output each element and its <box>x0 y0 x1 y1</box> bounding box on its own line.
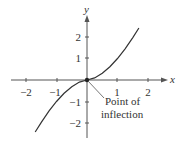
y-tick-label: 2 <box>76 31 82 43</box>
plot-area: −2 −1 1 2 2 1 −1 −2 x y Point of inflect… <box>0 0 183 143</box>
x-tick-label: −1 <box>49 86 61 98</box>
y-tick-label: 1 <box>76 52 82 64</box>
annotation-leader <box>88 81 104 98</box>
annotation-line2: inflection <box>101 108 144 120</box>
x-axis-label: x <box>169 73 175 85</box>
x-tick-label: 2 <box>145 86 151 98</box>
y-tick-label: −1 <box>69 96 81 108</box>
y-tick-label: −2 <box>69 117 81 129</box>
annotation-line1: Point of <box>105 95 140 107</box>
x-tick-label: −2 <box>20 86 32 98</box>
y-axis-arrow-icon <box>85 15 90 22</box>
x-axis-arrow-icon <box>161 78 168 83</box>
y-axis-label: y <box>83 3 89 15</box>
chart: −2 −1 1 2 2 1 −1 −2 x y Point of inflect… <box>0 0 183 143</box>
